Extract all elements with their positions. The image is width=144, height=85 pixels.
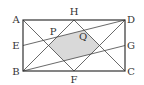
label-point-e: E [12, 40, 19, 51]
label-point-g: G [127, 40, 135, 51]
label-point-p: P [50, 26, 57, 37]
label-point-f: F [71, 74, 78, 85]
label-point-d: D [127, 14, 135, 25]
label-point-h: H [70, 6, 79, 17]
label-point-c: C [127, 66, 135, 77]
label-point-b: B [12, 66, 19, 77]
label-point-a: A [11, 14, 20, 25]
geometry-diagram: ABCDEFGHPQ [0, 0, 144, 85]
label-point-q: Q [79, 31, 87, 42]
